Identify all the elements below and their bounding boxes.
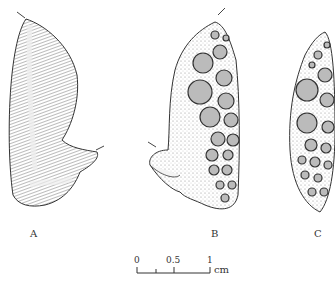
panel-label-c: C <box>314 228 322 239</box>
scale-tick-0-5: 0.5 <box>166 255 180 265</box>
specimen-illustration <box>0 0 335 283</box>
scale-unit: cm <box>214 264 229 275</box>
panel-b-specimen <box>148 8 239 209</box>
scale-bar <box>137 267 210 273</box>
panel-a-specimen <box>9 12 104 206</box>
panel-label-b: B <box>211 228 218 239</box>
panel-c-specimen <box>290 32 335 212</box>
scale-tick-0: 0 <box>134 255 140 265</box>
panel-label-a: A <box>30 228 37 239</box>
scale-tick-1: 1 <box>207 255 213 265</box>
